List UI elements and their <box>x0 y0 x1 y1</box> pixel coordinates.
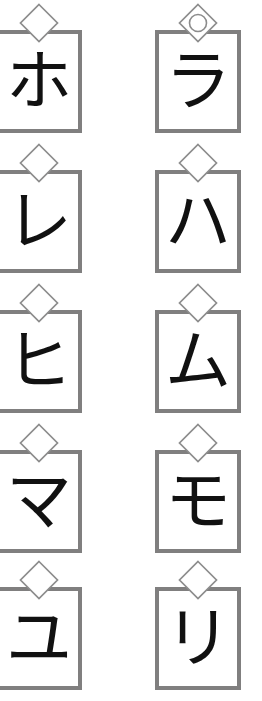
character-card[interactable]: ホ <box>0 0 82 103</box>
katakana-glyph: マ <box>0 454 78 549</box>
katakana-glyph: ム <box>159 314 237 409</box>
character-card[interactable]: ハ <box>155 140 241 243</box>
character-card[interactable]: マ <box>0 420 82 523</box>
character-card[interactable]: ム <box>155 280 241 383</box>
card-grid-canvas: ホレヒマユラハムモリ <box>0 0 262 701</box>
character-box[interactable]: ユ <box>0 587 82 690</box>
character-box[interactable]: ム <box>155 310 241 413</box>
katakana-glyph: モ <box>159 454 237 549</box>
katakana-glyph: ユ <box>0 591 78 686</box>
katakana-glyph: レ <box>0 174 78 269</box>
character-card[interactable]: モ <box>155 420 241 523</box>
katakana-glyph: ハ <box>159 174 237 269</box>
character-box[interactable]: モ <box>155 450 241 553</box>
katakana-glyph: リ <box>159 591 237 686</box>
character-box[interactable]: レ <box>0 170 82 273</box>
katakana-glyph: ラ <box>159 34 237 129</box>
katakana-glyph: ホ <box>0 34 78 129</box>
character-card[interactable]: リ <box>155 557 241 660</box>
character-card[interactable]: レ <box>0 140 82 243</box>
character-box[interactable]: ホ <box>0 30 82 133</box>
character-box[interactable]: ハ <box>155 170 241 273</box>
character-box[interactable]: ヒ <box>0 310 82 413</box>
character-card[interactable]: ユ <box>0 557 82 660</box>
character-box[interactable]: ラ <box>155 30 241 133</box>
right-column: ラハムモリ <box>155 0 243 701</box>
character-card[interactable]: ラ <box>155 0 241 103</box>
katakana-glyph: ヒ <box>0 314 78 409</box>
left-column: ホレヒマユ <box>0 0 90 701</box>
character-card[interactable]: ヒ <box>0 280 82 383</box>
character-box[interactable]: マ <box>0 450 82 553</box>
character-box[interactable]: リ <box>155 587 241 690</box>
